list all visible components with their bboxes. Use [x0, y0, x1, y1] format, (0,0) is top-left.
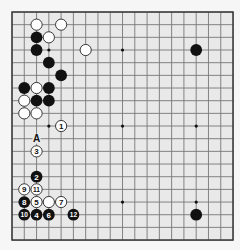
black-stone-icon [18, 82, 30, 94]
move-number-label: 11 [33, 186, 40, 193]
black-stone[interactable] [31, 95, 43, 107]
black-stone[interactable]: 4 [31, 209, 43, 221]
black-stone[interactable] [43, 57, 55, 69]
black-stone-icon [43, 82, 55, 94]
black-stone-icon [31, 31, 43, 43]
white-stone[interactable] [80, 44, 91, 55]
black-stone[interactable]: 10 [18, 209, 30, 221]
black-stone-icon [31, 44, 43, 56]
black-stone[interactable] [31, 31, 43, 43]
go-board[interactable]: A 132911857104612 [0, 0, 240, 250]
white-stone-icon [43, 196, 54, 207]
star-point-icon [121, 200, 124, 203]
white-stone[interactable] [19, 95, 30, 106]
white-stone-icon [31, 19, 42, 30]
white-stone[interactable] [43, 196, 54, 207]
star-point-icon [47, 48, 50, 51]
black-stone[interactable] [190, 44, 202, 56]
move-number-label: 10 [21, 211, 29, 218]
point-marker-label: A [33, 133, 40, 144]
move-number-label: 3 [34, 147, 39, 156]
white-stone[interactable]: 11 [31, 184, 42, 195]
black-stone[interactable] [43, 82, 55, 94]
black-stone-icon [43, 95, 55, 107]
white-stone-icon [80, 44, 91, 55]
black-stone[interactable] [18, 82, 30, 94]
white-stone-icon [19, 108, 30, 119]
black-stone[interactable]: 8 [18, 196, 30, 208]
white-stone-icon [56, 19, 67, 30]
star-point-icon [121, 48, 124, 51]
star-point-icon [195, 200, 198, 203]
move-number-label: 8 [22, 198, 27, 207]
move-number-label: 2 [34, 173, 39, 182]
move-number-label: 7 [59, 198, 64, 207]
move-number-label: 4 [34, 211, 39, 220]
white-stone[interactable] [31, 108, 42, 119]
white-stone[interactable]: 5 [31, 196, 42, 207]
white-stone-icon [43, 32, 54, 43]
black-stone-icon [190, 209, 202, 221]
white-stone[interactable] [56, 19, 67, 30]
white-stone[interactable]: 7 [56, 196, 67, 207]
black-stone-icon [190, 44, 202, 56]
white-stone[interactable] [19, 108, 30, 119]
white-stone[interactable]: 1 [56, 120, 67, 131]
white-stone[interactable]: 3 [31, 146, 42, 157]
move-number-label: 6 [47, 211, 52, 220]
black-stone[interactable]: 6 [43, 209, 55, 221]
black-stone[interactable] [55, 69, 67, 81]
white-stone-icon [31, 82, 42, 93]
move-number-label: 5 [34, 198, 39, 207]
black-stone-icon [31, 95, 43, 107]
white-stone[interactable] [43, 32, 54, 43]
black-stone-icon [55, 69, 67, 81]
white-stone-icon [19, 95, 30, 106]
white-stone[interactable]: 9 [19, 184, 30, 195]
black-stone[interactable] [43, 95, 55, 107]
move-number-label: 1 [59, 122, 64, 131]
black-stone-icon [43, 57, 55, 69]
white-stone-icon [31, 108, 42, 119]
black-stone[interactable]: 12 [68, 209, 80, 221]
star-point-icon [195, 124, 198, 127]
black-stone[interactable]: 2 [31, 171, 43, 183]
board-markers: A [33, 133, 41, 144]
white-stone[interactable] [31, 82, 42, 93]
move-number-label: 9 [22, 185, 27, 194]
move-number-label: 12 [70, 211, 78, 218]
white-stone[interactable] [31, 19, 42, 30]
star-point-icon [121, 124, 124, 127]
black-stone[interactable] [190, 209, 202, 221]
black-stone[interactable] [31, 44, 43, 56]
star-point-icon [47, 124, 50, 127]
